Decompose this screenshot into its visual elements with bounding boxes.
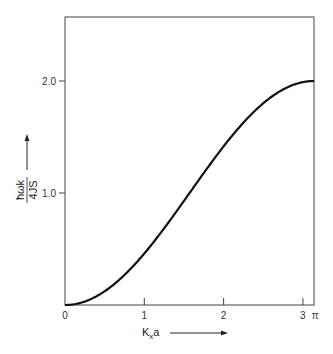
y-label-denominator: 4JS [27, 181, 39, 200]
y-axis-ticks: 1.02.0 [42, 76, 65, 199]
x-tick-label: π [312, 310, 319, 321]
x-axis-ticks: 0123π [62, 298, 318, 321]
x-axis-label: Kxa [142, 326, 160, 341]
x-tick-label: 1 [142, 310, 148, 321]
plot-frame [65, 17, 314, 305]
x-label-tail: a [153, 326, 160, 338]
x-tick-label: 2 [221, 310, 227, 321]
x-axis-arrow-icon [170, 331, 228, 336]
dispersion-curve [65, 81, 314, 305]
chart: 1.02.0 0123π ħωk 4JS Kxa [0, 0, 333, 354]
y-axis-arrow-icon [25, 134, 30, 170]
svg-text:Kxa: Kxa [142, 326, 160, 341]
y-label-numerator: ħωk [14, 179, 26, 200]
y-tick-label: 2.0 [42, 76, 56, 87]
y-axis-label: ħωk 4JS [14, 177, 39, 203]
x-tick-label: 3 [300, 310, 306, 321]
x-tick-label: 0 [62, 310, 68, 321]
y-tick-label: 1.0 [42, 188, 56, 199]
